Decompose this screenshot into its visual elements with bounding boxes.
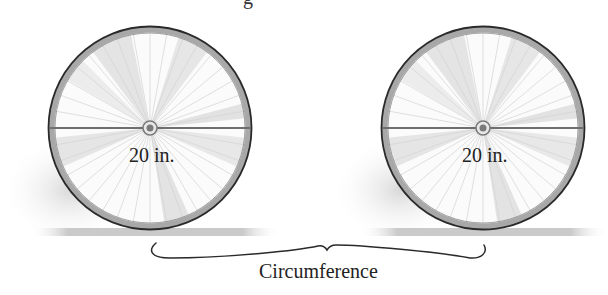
right-diameter-label: 20 in.	[462, 144, 508, 167]
left-wheel	[49, 27, 252, 230]
right-wheel	[382, 27, 585, 230]
left-diameter-label: 20 in.	[129, 144, 175, 167]
circumference-diagram: g	[0, 0, 608, 295]
circumference-label: Circumference	[259, 260, 378, 283]
circumference-brace	[152, 243, 486, 258]
diagram-canvas	[0, 0, 608, 295]
